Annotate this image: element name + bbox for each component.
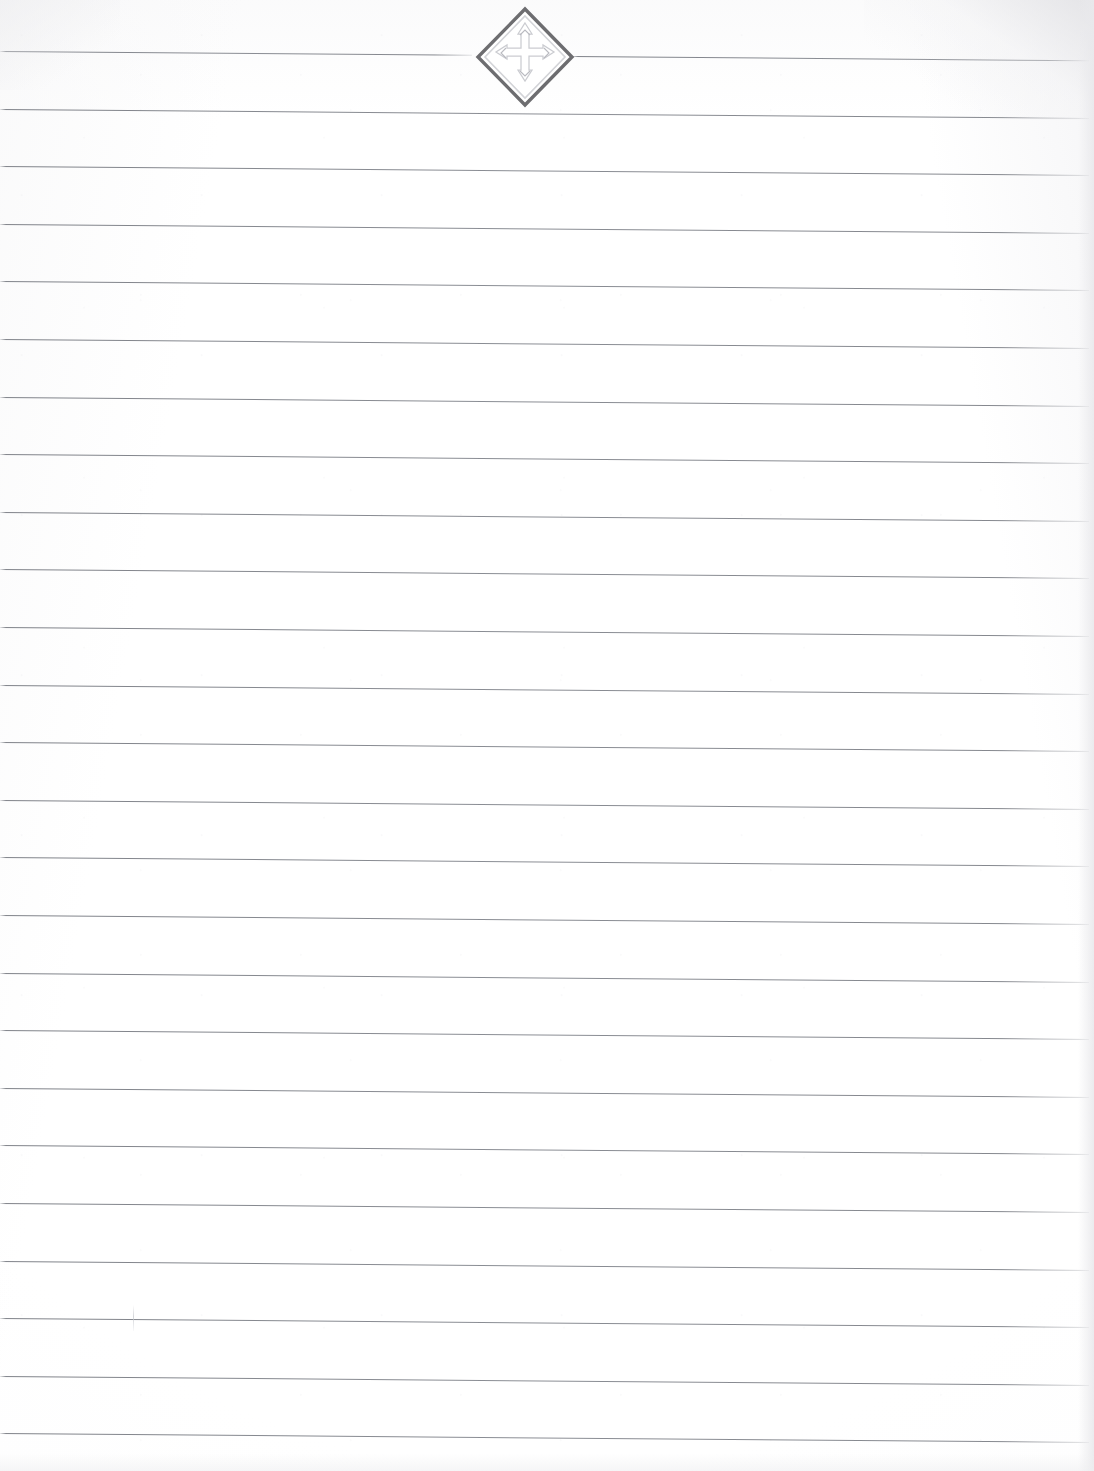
- ruled-line: [0, 915, 1089, 925]
- diamond-insignia-icon: [474, 5, 576, 109]
- ruled-line: [0, 569, 1089, 579]
- ruled-line: [0, 973, 1089, 983]
- ruled-line: [0, 166, 1089, 176]
- ruled-line: [0, 281, 1089, 291]
- ruled-line: [0, 1376, 1089, 1386]
- stray-pen-tick: [133, 1305, 134, 1331]
- ruled-line: [0, 857, 1089, 867]
- ruled-line: [0, 397, 1089, 407]
- ruled-line: [0, 512, 1089, 522]
- ruled-line: [0, 339, 1089, 349]
- ruled-line: [0, 224, 1089, 234]
- ruled-line: [0, 1030, 1089, 1040]
- ruled-line: [0, 742, 1089, 752]
- ruled-line: [0, 1433, 1089, 1443]
- ruled-line: [572, 56, 1089, 61]
- ruled-line: [0, 1203, 1089, 1213]
- notepaper-page: [0, 0, 1094, 1471]
- ruled-line: [0, 1145, 1089, 1155]
- ruled-line: [0, 1318, 1089, 1328]
- ruled-line: [0, 1261, 1089, 1271]
- ruled-line: [0, 454, 1089, 464]
- ruled-line: [0, 800, 1089, 810]
- ruled-lines-layer: [0, 0, 1094, 1471]
- ruled-line: [0, 627, 1089, 637]
- ruled-line: [0, 51, 472, 56]
- ruled-line: [0, 1088, 1089, 1098]
- ruled-line: [0, 109, 1089, 119]
- ruled-line: [0, 685, 1089, 695]
